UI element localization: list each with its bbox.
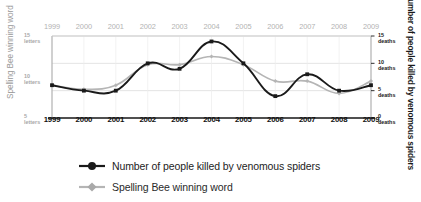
x-tick-bottom-2004: 2004	[196, 115, 228, 124]
x-tick-bottom-2009: 2009	[355, 115, 387, 124]
spurious-correlation-chart: Spelling Bee winning word Number of peop…	[0, 0, 421, 202]
x-tick-top-2009: 2009	[355, 22, 387, 31]
x-tick-top-2007: 2007	[291, 22, 323, 31]
data-point-marker	[210, 40, 214, 44]
x-tick-top-2003: 2003	[164, 22, 196, 31]
data-point-marker	[210, 55, 214, 59]
legend-label-spider-deaths: Number of people killed by venomous spid…	[106, 160, 320, 172]
chart-legend: Number of people killed by venomous spid…	[78, 155, 378, 197]
data-point-marker	[273, 79, 277, 83]
x-tick-top-2002: 2002	[132, 22, 164, 31]
x-tick-top-2004: 2004	[196, 22, 228, 31]
x-tick-top-2008: 2008	[323, 22, 355, 31]
data-point-marker	[178, 67, 182, 71]
x-tick-bottom-2000: 2000	[68, 115, 100, 124]
data-point-marker	[337, 89, 341, 93]
data-point-marker	[82, 89, 86, 93]
legend-marker-circle-icon	[78, 159, 106, 173]
x-tick-top-2001: 2001	[100, 22, 132, 31]
data-point-marker	[273, 94, 277, 98]
x-tick-bottom-2002: 2002	[132, 115, 164, 124]
data-point-marker	[369, 83, 373, 87]
x-tick-bottom-2006: 2006	[259, 115, 291, 124]
x-tick-bottom-1999: 1999	[36, 115, 68, 124]
x-tick-bottom-2008: 2008	[323, 115, 355, 124]
data-point-marker	[146, 61, 150, 65]
data-point-marker	[305, 79, 309, 83]
data-point-marker	[305, 72, 309, 76]
legend-label-spelling-bee: Spelling Bee winning word	[106, 181, 233, 193]
x-tick-bottom-2003: 2003	[164, 115, 196, 124]
legend-marker-diamond-icon	[78, 180, 106, 194]
legend-item-spider-deaths: Number of people killed by venomous spid…	[78, 155, 378, 176]
x-tick-bottom-2007: 2007	[291, 115, 323, 124]
x-tick-bottom-2005: 2005	[227, 115, 259, 124]
data-point-marker	[50, 83, 54, 87]
legend-item-spelling-bee: Spelling Bee winning word	[78, 176, 378, 197]
x-tick-top-2006: 2006	[259, 22, 291, 31]
data-point-marker	[114, 89, 118, 93]
x-tick-top-1999: 1999	[36, 22, 68, 31]
x-tick-top-2000: 2000	[68, 22, 100, 31]
x-tick-bottom-2001: 2001	[100, 115, 132, 124]
data-point-marker	[242, 61, 246, 65]
gridlines	[52, 36, 371, 118]
x-tick-top-2005: 2005	[227, 22, 259, 31]
